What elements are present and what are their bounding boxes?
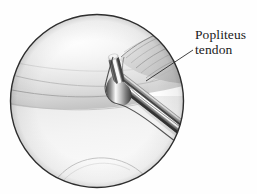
- popliteus-tendon-label-line-2: tendon: [195, 43, 232, 57]
- popliteus-tendon-label-line-1: Popliteus: [195, 28, 246, 42]
- arthroscopic-figure: Popliteus tendon: [0, 0, 257, 194]
